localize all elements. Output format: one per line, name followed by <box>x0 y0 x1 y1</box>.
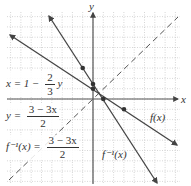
eq3-left: f⁻¹(x) = <box>6 140 41 152</box>
equation-x-in-terms-of-y: x = 1 − 2 3 y <box>6 72 62 97</box>
eq2-denominator: 2 <box>40 117 46 129</box>
point <box>101 97 106 102</box>
point <box>91 86 96 91</box>
equation-y-solved: y = 3 − 3x 2 <box>6 104 59 129</box>
f-line-label: f(x) <box>150 112 165 123</box>
eq1-numerator: 2 <box>45 72 55 85</box>
eq3-denominator: 2 <box>60 148 66 160</box>
eq2-left: y = <box>6 109 21 121</box>
eq2-numerator: 3 − 3x <box>27 104 59 117</box>
eq1-denominator: 3 <box>47 85 53 97</box>
x-axis-label: x <box>181 93 186 105</box>
eq1-right: y <box>57 77 62 89</box>
eq1-left: x = 1 − <box>6 77 39 89</box>
point <box>80 66 85 71</box>
point <box>91 82 96 87</box>
equation-f-inverse: f⁻¹(x) = 3 − 3x 2 <box>6 135 79 160</box>
point <box>122 107 127 112</box>
eq1-fraction: 2 3 <box>45 72 55 97</box>
eq3-numerator: 3 − 3x <box>47 135 79 148</box>
f-inverse-line-label: f⁻¹(x) <box>102 149 127 160</box>
eq3-fraction: 3 − 3x 2 <box>47 135 79 160</box>
y-axis-label: y <box>89 0 94 12</box>
eq2-fraction: 3 − 3x 2 <box>27 104 59 129</box>
